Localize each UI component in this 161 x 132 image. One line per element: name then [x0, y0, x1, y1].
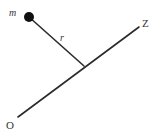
mass-point [24, 12, 34, 22]
axis-line-oz [18, 27, 139, 117]
axis-end-label: Z [142, 17, 149, 29]
diagram-canvas: m r O Z [0, 0, 161, 132]
mass-label: m [9, 7, 16, 18]
radius-label: r [60, 32, 64, 43]
origin-label: O [6, 119, 14, 131]
radius-line [29, 17, 84, 66]
